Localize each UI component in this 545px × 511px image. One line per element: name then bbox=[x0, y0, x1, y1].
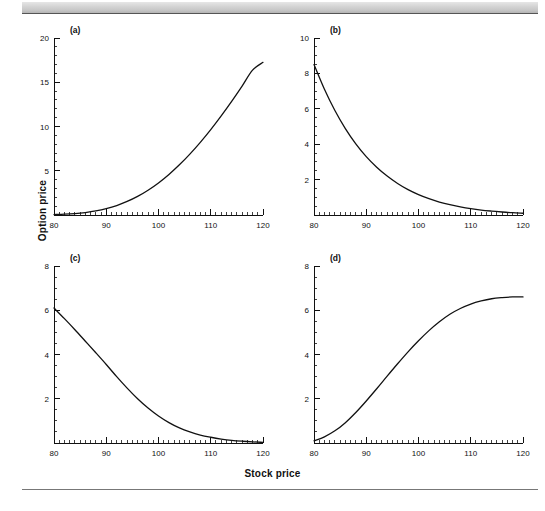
panel-d: 80901001101202468 (d) bbox=[274, 250, 532, 462]
svg-text:4: 4 bbox=[305, 351, 310, 360]
svg-text:10: 10 bbox=[300, 34, 309, 43]
bottom-horizontal-rule bbox=[22, 489, 538, 490]
svg-text:120: 120 bbox=[516, 221, 530, 230]
svg-text:4: 4 bbox=[45, 351, 50, 360]
svg-text:90: 90 bbox=[102, 449, 111, 458]
svg-text:2: 2 bbox=[305, 176, 310, 185]
svg-text:90: 90 bbox=[102, 221, 111, 230]
svg-text:10: 10 bbox=[40, 123, 49, 132]
panel-c-plot: 80901001101202468 bbox=[14, 250, 272, 462]
svg-text:8: 8 bbox=[45, 262, 50, 271]
svg-text:90: 90 bbox=[362, 221, 371, 230]
svg-text:110: 110 bbox=[464, 221, 477, 230]
svg-text:15: 15 bbox=[40, 78, 49, 87]
top-decorative-band bbox=[22, 2, 538, 13]
panel-b-tag: (b) bbox=[330, 25, 341, 35]
svg-text:90: 90 bbox=[362, 449, 371, 458]
svg-text:2: 2 bbox=[305, 395, 310, 404]
svg-text:110: 110 bbox=[464, 449, 477, 458]
panel-b-plot: 8090100110120246810 bbox=[274, 22, 532, 234]
panel-a-plot: 80901001101205101520 bbox=[14, 22, 272, 234]
svg-text:100: 100 bbox=[152, 449, 166, 458]
svg-text:6: 6 bbox=[45, 306, 50, 315]
svg-text:80: 80 bbox=[310, 221, 319, 230]
svg-text:8: 8 bbox=[305, 69, 310, 78]
panel-c-tag: (c) bbox=[70, 253, 80, 263]
svg-text:120: 120 bbox=[256, 449, 270, 458]
top-horizontal-rule bbox=[22, 13, 538, 14]
svg-text:110: 110 bbox=[204, 449, 217, 458]
panel-b: 8090100110120246810 (b) bbox=[274, 22, 532, 234]
svg-text:110: 110 bbox=[204, 221, 217, 230]
svg-text:5: 5 bbox=[45, 167, 50, 176]
svg-text:4: 4 bbox=[305, 140, 310, 149]
svg-text:8: 8 bbox=[305, 262, 310, 271]
figure-root: Option price Stock price 809010011012051… bbox=[0, 0, 545, 511]
svg-text:80: 80 bbox=[310, 449, 319, 458]
svg-text:20: 20 bbox=[40, 34, 49, 43]
panel-d-plot: 80901001101202468 bbox=[274, 250, 532, 462]
svg-text:100: 100 bbox=[412, 221, 426, 230]
panel-d-tag: (d) bbox=[330, 253, 341, 263]
svg-text:100: 100 bbox=[152, 221, 166, 230]
svg-text:120: 120 bbox=[256, 221, 270, 230]
svg-text:120: 120 bbox=[516, 449, 530, 458]
svg-text:80: 80 bbox=[50, 449, 59, 458]
svg-text:6: 6 bbox=[305, 306, 310, 315]
panel-a-tag: (a) bbox=[70, 25, 80, 35]
svg-text:2: 2 bbox=[45, 395, 50, 404]
svg-text:100: 100 bbox=[412, 449, 426, 458]
x-axis-label: Stock price bbox=[0, 468, 545, 479]
panel-c: 80901001101202468 (c) bbox=[14, 250, 272, 462]
svg-text:6: 6 bbox=[305, 105, 310, 114]
svg-text:80: 80 bbox=[50, 221, 59, 230]
panel-a: 80901001101205101520 (a) bbox=[14, 22, 272, 234]
